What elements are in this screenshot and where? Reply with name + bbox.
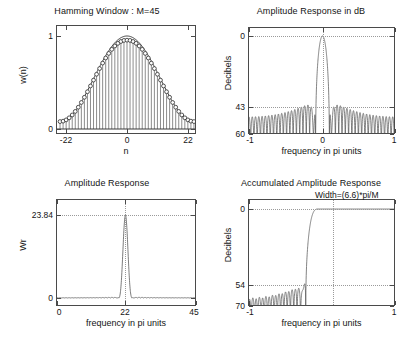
ytick-mark-acc-0 [249,209,253,210]
ytick-label-db-0: 0 [240,32,245,41]
plot-area-hamming-window [57,26,195,133]
xtick-label-wr-22: 22 [120,308,129,317]
xtick-mark-db-1-top [395,28,396,32]
xtick-label-acc-1: 1 [392,308,397,317]
matlab-figure-window: Hamming Window : M=45 w(n) 1 [0,0,414,345]
xtick-label-wr-0: 0 [57,308,62,317]
xtick-label-db-0: 0 [320,136,325,145]
ytick-mark-0-right [191,129,195,130]
xtick-mark-acc-1-top [395,200,396,204]
xtick-mark-acc-neg1-top [249,200,250,204]
xtick-mark-wr-45 [196,301,197,305]
gridline-wr-peak [57,215,195,216]
xtick-mark-wr-45-top [196,200,197,204]
ytick-label-acc-70: 70 [236,302,245,311]
gridline-wr-22 [125,200,126,305]
ytick-label-db-43: 43 [236,103,245,112]
ytick-mark-db-43 [249,107,253,108]
panel-hamming-window: Hamming Window : M=45 w(n) 1 [8,6,206,171]
ytick-mark-1 [57,36,61,37]
ytick-label-wr-0: 0 [48,294,53,303]
line-accumulated-amplitude-response [249,200,394,305]
ytick-mark-db-0 [249,36,253,37]
xtick-mark-db-neg1 [249,129,250,133]
stem-plot-hamming-window [57,26,195,133]
annotation-width: Width=(6.6)*pi/M [315,190,379,200]
ytick-mark-wr-peak [57,215,61,216]
axis-xlabel-amplitude-response-db: frequency in pi units [249,146,394,156]
ytick-mark-wr-0 [57,298,61,299]
ytick-mark-0 [57,129,61,130]
ytick-mark-acc-54 [249,285,253,286]
xtick-mark-db-0 [323,129,324,133]
line-amplitude-response-db [249,28,394,133]
gridline-acc-transition [333,200,334,305]
xtick-mark-wr-22-top [125,200,126,204]
xtick-mark-acc-neg1 [249,301,250,305]
panel-amplitude-response-db: Amplitude Response in dB Decibels 0 43 6… [212,6,410,171]
axes-accumulated-amplitude-response: Width=(6.6)*pi/M 0 54 70 -1 1 frequency … [248,199,395,306]
axis-ylabel-hamming-window: w(n) [18,55,28,95]
xtick-mark-db-1 [395,129,396,133]
ytick-mark-acc-0-right [390,209,394,210]
panel-title-amplitude-response: Amplitude Response [8,178,206,189]
xtick-mark-0-top [127,26,128,30]
axis-xlabel-amplitude-response: frequency in pi units [57,318,195,328]
plot-area-accumulated-amplitude-response [249,200,394,305]
xtick-mark-db-0-top [323,28,324,32]
axis-ylabel-accumulated-amplitude-response: Decibels [223,215,233,275]
ytick-mark-acc-54-right [390,285,394,286]
plot-area-amplitude-response [57,200,195,305]
xtick-label-neg22: -22 [60,136,72,145]
panel-title-accumulated-amplitude-response: Accumulated Amplitude Response [212,178,410,189]
ytick-label-wr-peak: 23.84 [32,211,53,220]
panel-accumulated-amplitude-response: Accumulated Amplitude Response Decibels … [212,178,410,343]
xtick-mark-wr-0-top [57,200,58,204]
axis-ylabel-amplitude-response: Wr [18,232,28,258]
gridline-acc-0 [249,209,394,210]
xtick-label-wr-45: 45 [189,308,198,317]
ytick-mark-db-43-right [390,107,394,108]
xtick-mark-wr-0 [57,301,58,305]
plot-area-amplitude-response-db [249,28,394,133]
ytick-label-w-0: 0 [48,125,53,134]
xtick-mark-wr-22 [125,301,126,305]
xtick-mark-neg22-top [66,26,67,30]
gridline-freq-0 [323,28,324,133]
ytick-label-w-1: 1 [48,32,53,41]
axis-ylabel-amplitude-response-db: Decibels [223,43,233,103]
gridline-acc-54 [249,285,394,286]
ytick-mark-1-right [191,36,195,37]
gridline-db-43 [249,107,394,108]
xtick-mark-neg22 [66,129,67,133]
axis-xlabel-accumulated-amplitude-response: frequency in pi units [249,318,394,328]
xtick-mark-db-neg1-top [249,28,250,32]
axes-amplitude-response: 23.84 0 0 22 45 frequency in pi units [56,199,196,306]
ytick-mark-wr-0-right [191,298,195,299]
ytick-label-db-60: 60 [236,130,245,139]
ytick-label-acc-54: 54 [236,281,245,290]
xtick-mark-22-top [188,26,189,30]
xtick-label-db-1: 1 [392,136,397,145]
xtick-mark-22 [188,129,189,133]
ytick-mark-db-0-right [390,36,394,37]
axis-xlabel-hamming-window: n [57,146,195,156]
ytick-mark-wr-peak-right [191,215,195,216]
panel-amplitude-response: Amplitude Response Wr 23.84 0 0 22 [8,178,206,343]
axes-hamming-window: 1 0 -22 0 22 n [56,25,196,134]
xtick-label-22: 22 [183,136,192,145]
xtick-label-0: 0 [125,136,130,145]
xtick-label-acc-neg1: -1 [246,308,254,317]
panel-title-hamming-window: Hamming Window : M=45 [8,6,206,17]
axes-amplitude-response-db: 0 43 60 -1 0 1 frequency in pi units [248,27,395,134]
xtick-label-db-neg1: -1 [246,136,254,145]
panel-title-amplitude-response-db: Amplitude Response in dB [212,6,410,17]
ytick-label-acc-0: 0 [240,205,245,214]
gridline-db-0 [249,36,394,37]
xtick-mark-acc-1 [395,301,396,305]
xtick-mark-0 [127,129,128,133]
